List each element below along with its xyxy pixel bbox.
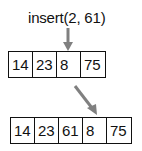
- diagonal-arrow-icon: [75, 86, 97, 115]
- array-before: 14 23 8 75: [8, 51, 106, 78]
- array-cell: 23: [35, 118, 59, 143]
- array-cell-inserted: 61: [59, 118, 83, 143]
- array-cell: 75: [81, 52, 105, 77]
- array-cell: 75: [107, 118, 131, 143]
- array-cell: 14: [9, 52, 33, 77]
- array-cell: 8: [83, 118, 107, 143]
- array-after: 14 23 61 8 75: [10, 117, 132, 144]
- array-cell: 14: [11, 118, 35, 143]
- array-cell: 23: [33, 52, 57, 77]
- array-cell: 8: [57, 52, 81, 77]
- down-arrow-icon: [63, 28, 73, 51]
